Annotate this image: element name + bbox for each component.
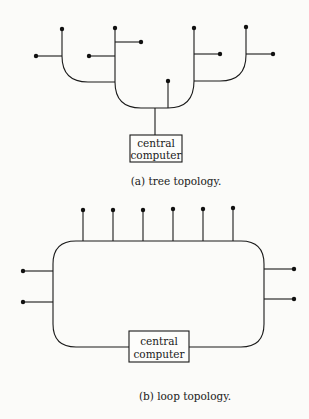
caption-loop: (b) loop topology.	[139, 390, 231, 402]
box-label-line1: central	[140, 335, 178, 347]
terminal-node	[292, 267, 296, 271]
terminal-node	[244, 25, 248, 29]
box-label-line1: central	[137, 137, 175, 149]
tree-topology-diagram: central computer (a) tree topology.	[34, 25, 275, 187]
terminal-node	[292, 297, 296, 301]
terminal-node	[34, 54, 38, 58]
terminal-node	[21, 269, 25, 273]
terminal-node	[192, 26, 196, 30]
tree-branch-center-right	[168, 28, 194, 108]
terminal-node	[231, 206, 235, 210]
terminal-node	[271, 52, 275, 56]
terminal-node	[166, 79, 170, 83]
loop-topology-diagram: central computer (b) loop topology.	[21, 206, 296, 402]
caption-tree: (a) tree topology.	[131, 175, 222, 187]
terminal-node	[171, 207, 175, 211]
terminal-node	[201, 207, 205, 211]
terminal-node	[81, 208, 85, 212]
terminal-node	[21, 300, 25, 304]
box-label-line2: computer	[130, 149, 182, 161]
terminal-node	[113, 26, 117, 30]
terminal-node	[141, 208, 145, 212]
terminal-node	[218, 52, 222, 56]
terminal-node	[60, 27, 64, 31]
network-topology-figure: central computer (a) tree topology. ce	[0, 0, 309, 419]
box-label-line2: computer	[133, 348, 185, 360]
terminal-node	[111, 208, 115, 212]
terminal-node	[87, 54, 91, 58]
terminal-node	[139, 40, 143, 44]
